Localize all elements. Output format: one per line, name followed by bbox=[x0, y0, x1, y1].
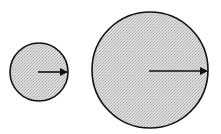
circles-radius-diagram bbox=[0, 0, 221, 134]
large-circle bbox=[92, 12, 208, 128]
